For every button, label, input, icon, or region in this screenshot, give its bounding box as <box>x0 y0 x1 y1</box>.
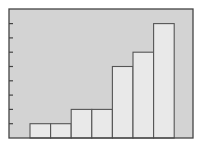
bar-2 <box>51 124 72 138</box>
bar-7 <box>154 24 175 138</box>
bar-5 <box>112 67 133 139</box>
bar-4 <box>92 109 113 138</box>
bar-3 <box>71 109 92 138</box>
bar-1 <box>30 124 51 138</box>
bar-6 <box>133 52 154 138</box>
bar-chart <box>0 0 199 147</box>
